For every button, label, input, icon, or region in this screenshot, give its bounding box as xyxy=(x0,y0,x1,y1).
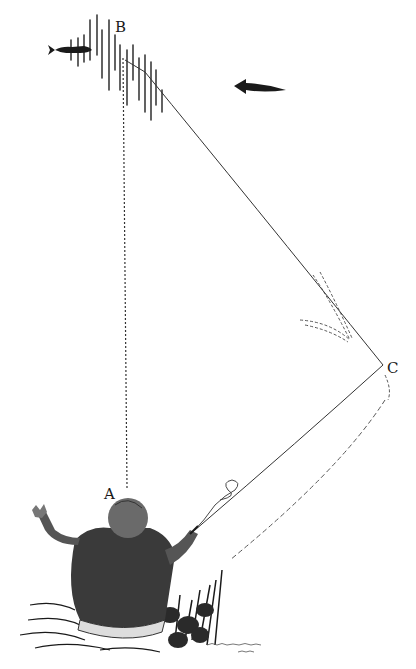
fish-icon xyxy=(48,45,92,55)
angler-figure xyxy=(20,498,222,652)
drift-marks xyxy=(300,272,389,400)
point-label-b: B xyxy=(115,18,126,36)
point-label-a: A xyxy=(104,485,115,503)
fly-line-b-to-c xyxy=(125,60,383,365)
dotted-line-b-to-a xyxy=(123,58,127,488)
fishing-diagram xyxy=(0,0,416,669)
current-arrow-icon xyxy=(234,79,286,94)
point-label-c: C xyxy=(387,359,398,377)
fly-line-c-to-rod xyxy=(195,365,383,530)
